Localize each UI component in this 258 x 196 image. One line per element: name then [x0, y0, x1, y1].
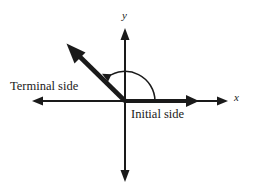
x-axis-right-arrowhead	[217, 97, 228, 106]
y-axis-top-arrowhead	[121, 28, 130, 40]
coordinate-plane-svg	[0, 0, 258, 196]
y-axis-label: y	[122, 10, 127, 21]
initial-side-label: Initial side	[131, 108, 184, 121]
initial-side-arrowhead	[186, 95, 199, 107]
angle-arc	[108, 71, 156, 101]
y-axis-bottom-arrowhead	[121, 170, 130, 182]
terminal-side-ray	[76, 53, 125, 101]
terminal-side-label: Terminal side	[10, 80, 78, 93]
x-axis-label: x	[234, 92, 239, 103]
x-axis-left-arrowhead	[32, 97, 43, 106]
angle-diagram-figure: Terminal side Initial side y x	[0, 0, 258, 196]
